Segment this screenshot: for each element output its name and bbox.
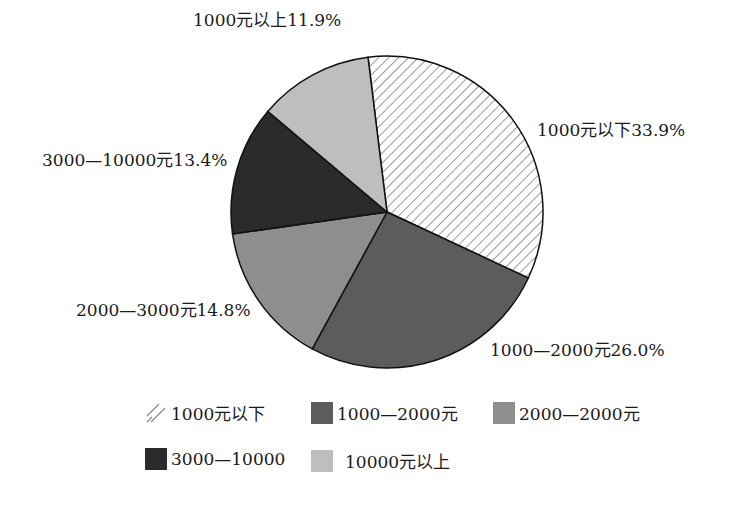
swatch-icon [145, 448, 167, 470]
slice-label-2000-3000: 2000—3000元14.8% [76, 302, 251, 319]
legend-item-2000-3000: 2000—2000元 [493, 400, 640, 425]
hatch-swatch-icon [145, 402, 167, 424]
legend-item-over-10000: 10000元以上 [311, 448, 450, 473]
slice-label-1000-2000: 1000—2000元26.0% [490, 342, 665, 359]
swatch-icon [311, 450, 333, 472]
swatch-icon [311, 402, 333, 424]
legend-item-3000-10000: 3000—10000 [145, 448, 285, 470]
legend-label: 3000—10000 [171, 449, 285, 469]
legend-item-under-1000: 1000元以下 [145, 400, 265, 425]
legend-label: 10000元以上 [345, 448, 450, 473]
legend-item-1000-2000: 1000—2000元 [311, 400, 458, 425]
slice-label-over-1000: 1000元以上11.9% [193, 12, 341, 29]
slice-label-3000-10000: 3000—10000元13.4% [42, 152, 227, 169]
legend-label: 2000—2000元 [519, 400, 640, 425]
slice-label-under-1000: 1000元以下33.9% [537, 122, 685, 139]
legend-label: 1000—2000元 [337, 400, 458, 425]
swatch-icon [493, 402, 515, 424]
legend-label: 1000元以下 [171, 400, 265, 425]
pie-chart [0, 0, 733, 505]
